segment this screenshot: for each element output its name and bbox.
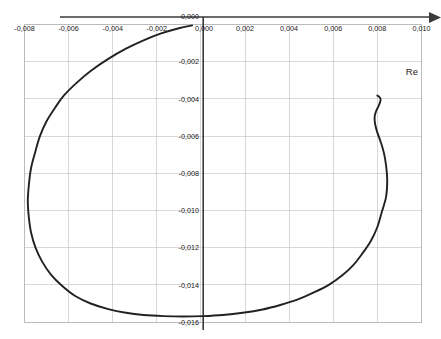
x-tick-label: 0,002 bbox=[236, 24, 254, 33]
arrow-right-icon bbox=[429, 12, 441, 23]
y-tick-label: -0,010 bbox=[179, 206, 199, 215]
y-tick-label: -0,008 bbox=[179, 169, 199, 178]
y-tick-label: -0,006 bbox=[179, 132, 199, 141]
x-tick-label: -0,004 bbox=[103, 24, 123, 33]
x-axis-name-label: Re bbox=[406, 66, 418, 77]
x-tick-label: -0,006 bbox=[58, 24, 78, 33]
nyquist-chart: -0,008 -0,006 -0,004 -0,002 0,000 0,002 … bbox=[0, 0, 441, 339]
y-tick-label: -0,012 bbox=[179, 243, 199, 252]
y-tick-label: -0,004 bbox=[179, 95, 199, 104]
y-tick-label: 0,000 bbox=[181, 12, 199, 21]
y-tick-label: -0,016 bbox=[179, 318, 199, 327]
y-tick-label: -0,014 bbox=[179, 281, 199, 290]
x-tick-label: 0,000 bbox=[195, 24, 213, 33]
chart-canvas: -0,008 -0,006 -0,004 -0,002 0,000 0,002 … bbox=[0, 0, 441, 339]
x-tick-label: 0,004 bbox=[280, 24, 298, 33]
x-tick-label: 0,008 bbox=[368, 24, 386, 33]
y-tick-label: -0,002 bbox=[179, 57, 199, 66]
x-tick-label: -0,008 bbox=[14, 24, 34, 33]
x-tick-label: 0,010 bbox=[412, 24, 430, 33]
x-tick-label: 0,006 bbox=[324, 24, 342, 33]
